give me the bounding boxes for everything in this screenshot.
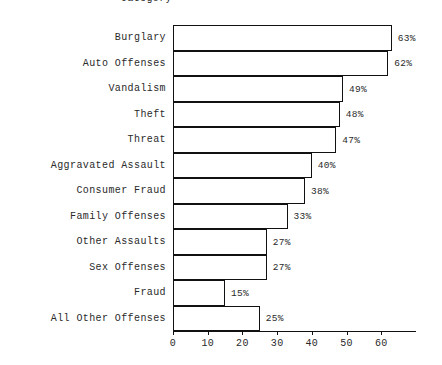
bar-value-label: 15% bbox=[225, 287, 249, 298]
category-label: Aggravated Assault bbox=[0, 153, 166, 179]
bar-row: 49% bbox=[173, 76, 416, 102]
x-tick-label: 60 bbox=[375, 338, 388, 349]
x-tick-label: 50 bbox=[340, 338, 353, 349]
bar-row: 48% bbox=[173, 102, 416, 128]
category-axis-labels: BurglaryAuto OffensesVandalismTheftThrea… bbox=[0, 25, 166, 331]
category-label: All Other Offenses bbox=[0, 306, 166, 332]
category-label: Theft bbox=[0, 102, 166, 128]
bar-value-label: 40% bbox=[312, 160, 336, 171]
x-tick-mark bbox=[173, 331, 174, 335]
category-label: Burglary bbox=[0, 25, 166, 51]
x-tick-mark bbox=[208, 331, 209, 335]
bar bbox=[173, 229, 267, 255]
category-label: Fraud bbox=[0, 280, 166, 306]
bar-value-label: 62% bbox=[388, 58, 412, 69]
bar bbox=[173, 76, 343, 102]
bar-row: 27% bbox=[173, 255, 416, 281]
bar bbox=[173, 25, 392, 51]
bar-row: 38% bbox=[173, 178, 416, 204]
bar-series: 63%62%49%48%47%40%38%33%27%27%15%25% bbox=[173, 25, 416, 331]
category-label: Consumer Fraud bbox=[0, 178, 166, 204]
bar-chart: Category BurglaryAuto OffensesVandalismT… bbox=[0, 0, 442, 365]
bar-value-label: 63% bbox=[392, 32, 416, 43]
x-tick-mark bbox=[242, 331, 243, 335]
category-label: Auto Offenses bbox=[0, 51, 166, 77]
category-label: Threat bbox=[0, 127, 166, 153]
bar-row: 27% bbox=[173, 229, 416, 255]
bar-row: 63% bbox=[173, 25, 416, 51]
bar-value-label: 33% bbox=[288, 211, 312, 222]
bar-row: 15% bbox=[173, 280, 416, 306]
bar-value-label: 49% bbox=[343, 83, 367, 94]
x-tick-mark bbox=[347, 331, 348, 335]
bar-row: 47% bbox=[173, 127, 416, 153]
bar bbox=[173, 153, 312, 179]
bar-row: 40% bbox=[173, 153, 416, 179]
plot-area: 63%62%49%48%47%40%38%33%27%27%15%25% bbox=[173, 25, 416, 331]
bar bbox=[173, 127, 336, 153]
bar bbox=[173, 280, 225, 306]
x-tick-label: 30 bbox=[271, 338, 284, 349]
bar bbox=[173, 102, 340, 128]
x-tick-mark bbox=[277, 331, 278, 335]
bar-value-label: 27% bbox=[267, 262, 291, 273]
bar bbox=[173, 178, 305, 204]
bar-row: 25% bbox=[173, 306, 416, 332]
category-label: Sex Offenses bbox=[0, 255, 166, 281]
bar bbox=[173, 204, 288, 230]
x-tick-label: 0 bbox=[170, 338, 176, 349]
x-tick-mark bbox=[312, 331, 313, 335]
bar bbox=[173, 51, 388, 77]
bar bbox=[173, 255, 267, 281]
category-label: Vandalism bbox=[0, 76, 166, 102]
category-label: Family Offenses bbox=[0, 204, 166, 230]
bar-value-label: 48% bbox=[340, 109, 364, 120]
bar-value-label: 38% bbox=[305, 185, 329, 196]
x-tick-label: 20 bbox=[236, 338, 249, 349]
bar-value-label: 27% bbox=[267, 236, 291, 247]
x-tick-label: 40 bbox=[306, 338, 319, 349]
category-label: Other Assaults bbox=[0, 229, 166, 255]
bar bbox=[173, 306, 260, 332]
x-axis-ticks: 0102030405060 bbox=[173, 331, 416, 361]
bar-value-label: 25% bbox=[260, 313, 284, 324]
x-tick-label: 10 bbox=[201, 338, 214, 349]
chart-axis-title-clipped: Category bbox=[0, 0, 172, 4]
bar-value-label: 47% bbox=[336, 134, 360, 145]
x-tick-mark bbox=[381, 331, 382, 335]
bar-row: 33% bbox=[173, 204, 416, 230]
bar-row: 62% bbox=[173, 51, 416, 77]
